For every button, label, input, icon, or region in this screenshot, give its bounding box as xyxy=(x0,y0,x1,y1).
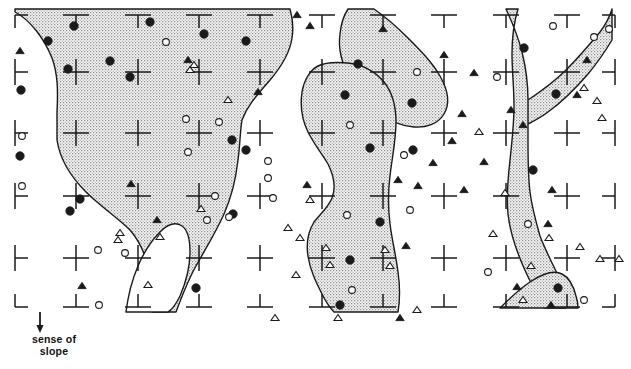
map-symbol-filled-circle xyxy=(242,37,250,45)
map-symbol-open-circle xyxy=(265,158,272,165)
map-symbol-filled-triangle xyxy=(460,186,468,192)
map-symbol-filled-triangle xyxy=(480,158,488,164)
map-symbol-filled-triangle xyxy=(293,11,301,17)
grid-tick-cross xyxy=(554,120,580,146)
grid-tick-edge-bottom xyxy=(63,294,89,307)
map-symbol-open-triangle xyxy=(306,197,314,203)
map-symbol-filled-triangle xyxy=(306,22,314,28)
map-symbol-filled-circle xyxy=(408,99,416,107)
map-symbol-filled-circle xyxy=(409,146,417,154)
map-symbol-open-circle xyxy=(96,302,103,309)
map-symbol-filled-triangle xyxy=(394,176,402,182)
map-symbol-open-triangle xyxy=(576,244,584,250)
map-symbol-open-circle xyxy=(349,287,356,294)
map-symbol-open-triangle xyxy=(114,237,122,243)
map-symbol-open-circle xyxy=(226,214,233,221)
map-symbol-open-circle xyxy=(591,34,598,41)
map-symbol-open-circle xyxy=(581,297,588,304)
map-symbol-open-circle xyxy=(216,119,223,126)
map-symbol-open-triangle xyxy=(545,235,553,241)
grid-tick-edge-right xyxy=(602,59,615,85)
map-symbol-open-circle xyxy=(204,217,211,224)
grid-tick-corner-bl xyxy=(15,294,28,307)
map-symbol-open-circle xyxy=(401,152,408,159)
map-symbol-filled-triangle xyxy=(429,159,437,165)
map-symbol-filled-circle xyxy=(44,37,52,45)
map-symbol-open-circle xyxy=(212,193,219,200)
grid-tick-edge-bottom xyxy=(247,294,273,307)
map-symbol-filled-circle xyxy=(192,284,200,292)
grid-tick-edge-top xyxy=(554,15,580,28)
map-symbol-open-circle xyxy=(122,250,129,257)
map-symbol-filled-circle xyxy=(200,30,208,38)
map-symbol-open-circle xyxy=(347,122,354,129)
map-symbol-open-circle xyxy=(163,39,170,46)
map-symbol-open-triangle xyxy=(116,230,124,236)
map-symbol-open-circle xyxy=(550,23,557,30)
map-symbol-filled-circle xyxy=(554,284,562,292)
grid-tick-edge-left xyxy=(15,59,28,85)
map-symbol-open-circle xyxy=(95,247,102,254)
grid-tick-cross xyxy=(247,120,273,146)
map-symbol-filled-triangle xyxy=(402,242,410,248)
map-symbol-open-triangle xyxy=(292,272,300,278)
map-symbol-open-circle xyxy=(407,207,414,214)
map-symbol-filled-circle xyxy=(64,65,72,73)
map-symbol-filled-circle xyxy=(354,60,362,68)
map-symbol-filled-triangle xyxy=(78,282,86,288)
map-symbol-open-triangle xyxy=(296,235,304,241)
map-polygon-right-main-region xyxy=(506,9,612,308)
map-symbol-filled-circle xyxy=(520,44,528,52)
grid-tick-cross xyxy=(247,183,273,209)
map-symbol-filled-triangle xyxy=(396,314,404,320)
map-symbol-open-triangle xyxy=(271,315,279,321)
grid-tick-cross xyxy=(554,183,580,209)
map-symbol-open-triangle xyxy=(615,256,623,262)
map-symbol-filled-circle xyxy=(529,166,537,174)
map-symbol-open-circle xyxy=(525,221,532,228)
map-symbol-filled-circle xyxy=(366,144,374,152)
grid-tick-cross xyxy=(431,183,457,209)
grid-tick-corner-br xyxy=(602,294,615,307)
grid-tick-edge-bottom xyxy=(431,294,457,307)
map-symbol-open-triangle xyxy=(413,307,421,313)
map-symbol-open-circle xyxy=(344,212,351,219)
map-symbol-filled-circle xyxy=(16,152,24,160)
map-symbol-open-circle xyxy=(270,195,277,202)
map-symbol-filled-triangle xyxy=(414,182,422,188)
grid-tick-cross xyxy=(493,245,519,271)
map-symbol-filled-circle xyxy=(376,218,384,226)
map-symbol-filled-triangle xyxy=(544,220,552,226)
geomorphological-map-figure: sense of slope xyxy=(0,0,631,369)
map-symbol-open-circle xyxy=(185,149,192,156)
map-symbol-filled-circle xyxy=(66,207,74,215)
map-symbol-filled-circle xyxy=(17,86,25,94)
grid-tick-edge-right xyxy=(602,245,615,271)
map-symbol-open-circle xyxy=(494,74,501,81)
map-symbol-filled-triangle xyxy=(548,186,556,192)
grid-tick-edge-left xyxy=(15,245,28,271)
map-symbol-filled-triangle xyxy=(458,110,466,116)
down-arrow-icon-head xyxy=(36,325,43,333)
map-symbol-open-triangle xyxy=(475,129,483,135)
map-symbol-filled-circle xyxy=(106,57,114,65)
map-symbol-filled-triangle xyxy=(513,283,521,289)
sense-of-slope-label: sense of slope xyxy=(8,334,100,357)
grid-tick-edge-right xyxy=(602,120,615,146)
map-symbol-filled-circle xyxy=(346,256,354,264)
map-canvas xyxy=(0,0,631,369)
slope-label-line2: slope xyxy=(8,346,100,358)
map-symbol-filled-triangle xyxy=(303,181,311,187)
grid-tick-edge-right xyxy=(602,183,615,209)
map-polygon-layer xyxy=(15,9,612,312)
grid-tick-cross xyxy=(247,245,273,271)
slope-arrow xyxy=(36,312,43,333)
grid-tick-cross xyxy=(63,245,89,271)
map-symbol-filled-circle xyxy=(336,301,344,309)
map-symbol-open-circle xyxy=(414,69,421,76)
map-symbol-filled-circle xyxy=(146,18,154,26)
map-symbol-filled-circle xyxy=(228,136,236,144)
map-symbol-open-circle xyxy=(265,175,272,182)
map-symbol-open-triangle xyxy=(580,85,588,91)
map-symbol-filled-circle xyxy=(552,90,560,98)
